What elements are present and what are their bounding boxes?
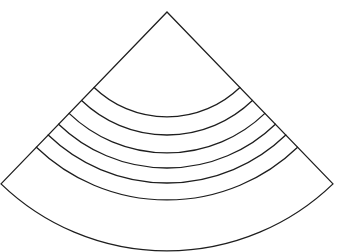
sector-outline <box>1 12 333 251</box>
sector-diagram <box>0 0 339 252</box>
concentric-arc-2 <box>82 101 253 135</box>
concentric-arc-3 <box>69 113 265 153</box>
concentric-arc-5 <box>48 135 286 183</box>
concentric-arc-1 <box>94 88 240 117</box>
concentric-arcs <box>36 88 297 200</box>
concentric-arc-6 <box>36 147 297 200</box>
sector-drawing <box>0 0 339 252</box>
